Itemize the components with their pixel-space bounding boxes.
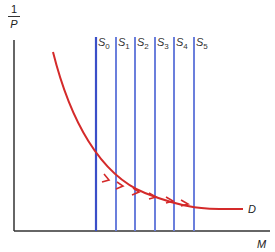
s-subscript: 4 <box>183 42 187 51</box>
supply-lines <box>96 37 194 231</box>
fraction-bar <box>8 16 20 17</box>
s-subscript: 2 <box>144 42 148 51</box>
s-subscript: 0 <box>105 42 109 51</box>
label-s0: S0 <box>98 36 110 51</box>
y-axis-label: 1 P <box>7 3 21 30</box>
arrow-icon <box>181 200 188 206</box>
movement-arrows <box>102 174 188 206</box>
label-s4: S4 <box>176 36 188 51</box>
label-s2: S2 <box>137 36 149 51</box>
s-subscript: 5 <box>203 42 207 51</box>
label-s1: S1 <box>118 36 130 51</box>
s-subscript: 3 <box>164 42 168 51</box>
x-axis-label: M <box>257 238 266 250</box>
demand-curve <box>53 52 243 209</box>
s-subscript: 1 <box>125 42 129 51</box>
y-label-numerator: 1 <box>7 3 21 15</box>
arrow-icon <box>102 174 109 182</box>
y-label-denominator: P <box>7 18 21 30</box>
label-s3: S3 <box>157 36 169 51</box>
arrow-icon <box>116 182 123 189</box>
label-s5: S5 <box>196 36 208 51</box>
demand-label: D <box>248 203 256 215</box>
